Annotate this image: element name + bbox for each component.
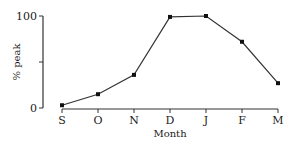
x-tick-label: N <box>129 114 139 127</box>
y-tick-label: 100 <box>16 10 37 23</box>
line-chart: 0100SONDJFM % peak Month <box>0 0 293 148</box>
x-tick-label: F <box>238 114 246 127</box>
chart-canvas: 0100SONDJFM % peak Month <box>0 0 293 148</box>
data-point-marker <box>96 92 100 96</box>
data-point-marker <box>204 14 208 18</box>
data-point-marker <box>276 81 280 85</box>
y-axis-label: % peak <box>11 43 22 81</box>
x-tick-label: S <box>58 114 66 127</box>
data-point-marker <box>60 103 64 107</box>
y-tick-label: 0 <box>30 102 37 115</box>
x-tick-label: O <box>93 114 102 127</box>
axes: 0100SONDJFM <box>16 10 284 127</box>
data-point-marker <box>168 15 172 19</box>
data-point-marker <box>240 40 244 44</box>
x-axis-label: Month <box>153 128 187 139</box>
data-point-marker <box>132 73 136 77</box>
series-line <box>62 16 278 105</box>
data-series <box>60 14 280 107</box>
x-tick-label: M <box>272 114 283 127</box>
x-tick-label: D <box>166 114 175 127</box>
x-tick-label: J <box>203 114 208 127</box>
